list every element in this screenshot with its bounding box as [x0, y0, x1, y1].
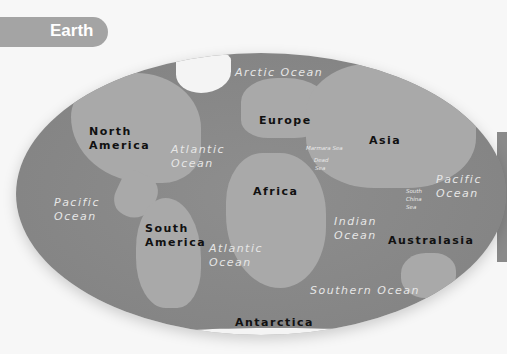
label-south-america-2: America — [145, 237, 206, 249]
label-asia: Asia — [369, 135, 401, 147]
label-pacific-east-2: Ocean — [436, 188, 479, 200]
label-pacific-west-2: Ocean — [54, 211, 97, 223]
label-atlantic-north-1: Atlantic — [171, 144, 225, 156]
label-marmara-sea: Marmara Sea — [306, 145, 343, 151]
asia-land — [306, 63, 476, 188]
label-atlantic-north-2: Ocean — [171, 158, 214, 170]
label-atlantic-south-1: Atlantic — [209, 243, 263, 255]
label-south-china-sea-2: China — [406, 196, 422, 202]
label-africa: Africa — [253, 186, 298, 198]
label-south-china-sea-1: South — [406, 188, 422, 194]
label-indian-ocean-2: Ocean — [334, 230, 377, 242]
label-arctic-ocean: Arctic Ocean — [235, 67, 323, 79]
label-dead-sea-1: Dead — [314, 157, 328, 163]
label-antarctica: Antarctica — [235, 317, 314, 329]
label-europe: Europe — [259, 115, 312, 127]
label-pacific-east-1: Pacific — [436, 174, 482, 186]
label-pacific-west-1: Pacific — [54, 197, 100, 209]
label-indian-ocean-1: Indian — [334, 216, 377, 228]
label-southern-ocean: Southern Ocean — [310, 285, 420, 297]
greenland-ice — [176, 53, 231, 93]
label-australasia: Australasia — [388, 235, 474, 247]
label-dead-sea-2: Sea — [315, 165, 325, 171]
world-map: Arctic Ocean North America Atlantic Ocea… — [16, 53, 506, 335]
label-south-america-1: South — [145, 223, 189, 235]
south-america-land — [136, 198, 201, 308]
label-south-china-sea-3: Sea — [406, 204, 416, 210]
label-north-america-2: America — [89, 140, 150, 152]
label-north-america-1: North — [89, 126, 132, 138]
title-tab: Earth — [0, 17, 108, 47]
label-atlantic-south-2: Ocean — [209, 257, 252, 269]
page-title: Earth — [50, 21, 93, 41]
